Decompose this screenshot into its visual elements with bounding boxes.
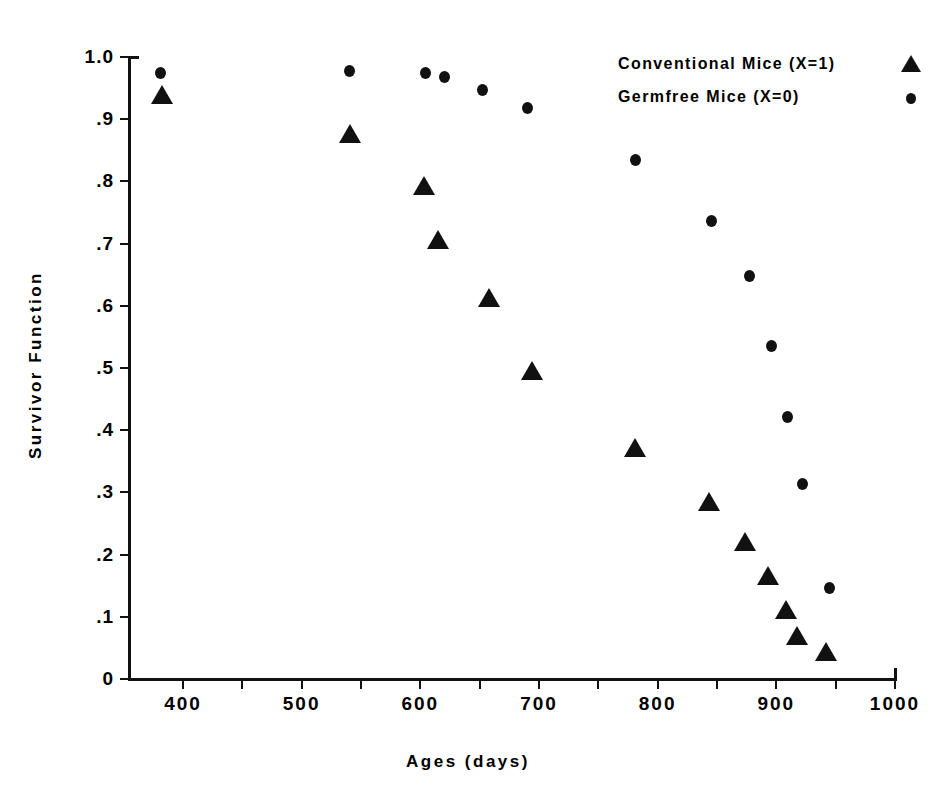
- x-axis-title: Ages (days): [0, 752, 936, 772]
- circle-data-point: [420, 67, 431, 79]
- y-axis-tick-label: .5: [62, 358, 114, 377]
- y-axis-tick-label: .1: [62, 607, 114, 626]
- triangle-data-point: [413, 176, 435, 195]
- circle-data-point: [706, 215, 717, 227]
- y-axis-tick-label: .7: [62, 234, 114, 253]
- y-axis-tick: [120, 180, 129, 182]
- circle-data-point: [522, 102, 533, 114]
- circle-data-point: [155, 67, 166, 79]
- x-axis-tick: [479, 680, 481, 689]
- triangle-data-point: [786, 626, 808, 645]
- legend-entry-conventional-mice: Conventional Mice (X=1): [618, 52, 918, 85]
- x-axis-tick: [419, 680, 421, 689]
- circle-data-point: [630, 154, 641, 166]
- circle-marker-icon: [906, 93, 916, 104]
- x-axis-tick-label: 1000: [850, 694, 936, 713]
- triangle-data-point: [151, 85, 173, 104]
- y-axis-tick: [120, 243, 129, 245]
- legend-label-germfree-mice: Germfree Mice (X=0): [618, 88, 800, 106]
- x-axis-tick: [835, 680, 837, 689]
- x-axis-tick-label: 600: [375, 694, 465, 713]
- y-axis-tick: [120, 56, 129, 58]
- x-axis-tick-label: 800: [613, 694, 703, 713]
- circle-data-point: [439, 71, 450, 83]
- triangle-data-point: [624, 438, 646, 457]
- y-axis-tick: [120, 429, 129, 431]
- circle-data-point: [782, 411, 793, 423]
- y-axis-top-cap: [128, 56, 139, 59]
- y-axis-tick-label: .3: [62, 482, 114, 501]
- y-axis-tick: [120, 678, 129, 680]
- y-axis-tick: [120, 367, 129, 369]
- y-axis-title: Survivor Function: [26, 245, 46, 485]
- triangle-marker-icon: [901, 55, 921, 72]
- y-axis-tick: [120, 616, 129, 618]
- x-axis-tick-label: 500: [257, 694, 347, 713]
- y-axis-tick-label: .2: [62, 545, 114, 564]
- triangle-data-point: [734, 532, 756, 551]
- triangle-data-point: [757, 566, 779, 585]
- x-axis-tick-label: 700: [494, 694, 584, 713]
- x-axis-tick: [182, 680, 184, 689]
- y-axis-tick-label: .9: [62, 109, 114, 128]
- circle-data-point: [766, 340, 777, 352]
- x-axis-tick-label: 900: [731, 694, 821, 713]
- x-axis-tick: [241, 680, 243, 689]
- x-axis-tick-label: 400: [138, 694, 228, 713]
- y-axis-tick: [120, 554, 129, 556]
- triangle-data-point: [521, 361, 543, 380]
- triangle-data-point: [427, 230, 449, 249]
- circle-data-point: [797, 478, 808, 490]
- y-axis-tick: [120, 491, 129, 493]
- legend: Conventional Mice (X=1) Germfree Mice (X…: [618, 52, 918, 118]
- y-axis-tick-label: .4: [62, 420, 114, 439]
- x-axis-tick: [775, 680, 777, 689]
- triangle-data-point: [815, 642, 837, 661]
- x-axis-tick: [716, 680, 718, 689]
- triangle-data-point: [698, 492, 720, 511]
- y-axis-tick-label: .8: [62, 171, 114, 190]
- y-axis-tick-label: 0: [62, 669, 114, 688]
- circle-data-point: [477, 84, 488, 96]
- x-axis-tick: [657, 680, 659, 689]
- triangle-data-point: [339, 124, 361, 143]
- x-axis-tick: [301, 680, 303, 689]
- triangle-data-point: [775, 600, 797, 619]
- y-axis-tick-label: .6: [62, 296, 114, 315]
- legend-label-conventional-mice: Conventional Mice (X=1): [618, 55, 836, 73]
- x-axis-tick: [597, 680, 599, 689]
- circle-data-point: [744, 270, 755, 282]
- x-axis-tick: [360, 680, 362, 689]
- y-axis-tick-label: 1.0: [62, 47, 114, 66]
- y-axis-tick: [120, 305, 129, 307]
- scatter-plot-figure: 0.1.2.3.4.5.6.7.8.91.0 40050060070080090…: [0, 0, 936, 800]
- y-axis-tick: [120, 118, 129, 120]
- y-axis-line: [128, 57, 131, 681]
- legend-entry-germfree-mice: Germfree Mice (X=0): [618, 85, 918, 118]
- circle-data-point: [344, 65, 355, 77]
- triangle-data-point: [478, 288, 500, 307]
- x-axis-tick: [538, 680, 540, 689]
- circle-data-point: [824, 582, 835, 594]
- x-axis-tick: [894, 680, 896, 689]
